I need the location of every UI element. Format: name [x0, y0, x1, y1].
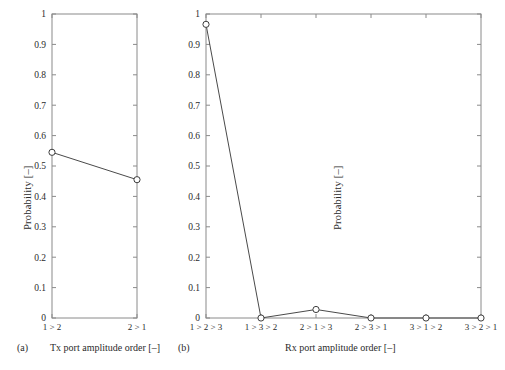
- data-point-marker: [203, 21, 209, 27]
- data-point-marker: [134, 177, 140, 183]
- y-tick-label: 0.3: [188, 222, 200, 232]
- data-point-marker: [313, 306, 319, 312]
- y-tick-label: 0.1: [34, 283, 46, 293]
- x-tick-label: 2 > 3 > 1: [355, 322, 388, 332]
- y-tick-label: 1: [41, 9, 46, 19]
- panel-a-tag: (a): [17, 342, 28, 353]
- data-series-line: [206, 24, 481, 318]
- y-tick-label: 0.7: [34, 101, 46, 111]
- y-tick-label: 0.3: [34, 222, 46, 232]
- panel-a-caption: Tx port amplitude order [–]: [50, 342, 160, 353]
- y-tick-label: 0.8: [34, 70, 46, 80]
- y-tick-label: 0.9: [188, 40, 200, 50]
- y-tick-label: 0.2: [34, 253, 46, 263]
- caption-row: (a) Tx port amplitude order [–] (b) Rx p…: [0, 342, 505, 360]
- data-point-marker: [478, 315, 484, 321]
- y-tick-label: 0.5: [188, 161, 200, 171]
- y-tick-label: 0.1: [188, 283, 200, 293]
- data-series-line: [52, 152, 137, 179]
- y-axis-label-b: Probability [–]: [332, 165, 343, 230]
- figure-container: 00.10.20.30.40.50.60.70.80.911 > 22 > 1 …: [0, 0, 505, 370]
- chart-panel-a: 00.10.20.30.40.50.60.70.80.911 > 22 > 1 …: [0, 0, 160, 370]
- y-tick-label: 0.5: [34, 161, 46, 171]
- y-tick-label: 0.4: [34, 192, 46, 202]
- data-point-marker: [49, 149, 55, 155]
- x-tick-label: 1 > 2 > 3: [190, 322, 223, 332]
- y-axis-label-a: Probability [–]: [22, 165, 33, 230]
- y-tick-label: 0.2: [188, 253, 200, 263]
- x-tick-label: 2 > 1: [128, 322, 147, 332]
- y-tick-label: 0.4: [188, 192, 200, 202]
- y-tick-label: 0.6: [188, 131, 200, 141]
- data-point-marker: [368, 315, 374, 321]
- chart-panel-b: 00.10.20.30.40.50.60.70.80.911 > 2 > 31 …: [155, 0, 505, 370]
- x-tick-label: 3 > 1 > 2: [410, 322, 443, 332]
- y-tick-label: 0.6: [34, 131, 46, 141]
- plot-area-b: 00.10.20.30.40.50.60.70.80.911 > 2 > 31 …: [155, 0, 505, 370]
- y-tick-label: 1: [195, 9, 200, 19]
- data-point-marker: [423, 315, 429, 321]
- y-tick-label: 0.9: [34, 40, 46, 50]
- x-tick-label: 3 > 2 > 1: [465, 322, 498, 332]
- y-tick-label: 0.8: [188, 70, 200, 80]
- panel-b-tag: (b): [178, 342, 190, 353]
- data-point-marker: [258, 315, 264, 321]
- x-tick-label: 1 > 3 > 2: [245, 322, 278, 332]
- x-tick-label: 1 > 2: [43, 322, 62, 332]
- axes-frame: [206, 14, 481, 318]
- x-tick-label: 2 > 1 > 3: [300, 322, 333, 332]
- panel-b-caption: Rx port amplitude order [–]: [285, 342, 396, 353]
- y-tick-label: 0.7: [188, 101, 200, 111]
